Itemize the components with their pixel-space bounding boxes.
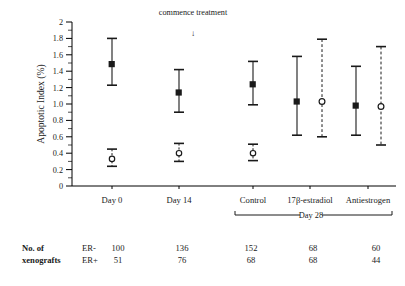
table-group-label-er-pos: ER+	[82, 255, 98, 265]
table-cell: 152	[245, 243, 258, 253]
down-arrow-icon: ↓	[191, 29, 195, 38]
marker-open-circle	[378, 104, 384, 110]
marker-filled-square	[353, 103, 359, 109]
y-tick-label: 0.4	[53, 149, 63, 158]
series-er-positive	[107, 39, 386, 166]
x-label-antiestrogen: Antiestrogen	[346, 195, 391, 205]
y-tick-label: 1.4	[53, 67, 63, 76]
series-er-negative	[107, 38, 361, 135]
y-tick-label: 1.0	[53, 100, 63, 109]
table-cell: 136	[176, 243, 190, 253]
xenograft-count-table: No. of xenografts ER- ER+ 100 136 152 68…	[22, 243, 381, 265]
datapoint-er-pos-day0	[107, 149, 117, 166]
day28-bracket: Day 28	[235, 211, 392, 220]
datapoint-er-neg-estradiol	[292, 56, 302, 135]
y-tick-label: 1.2	[53, 84, 63, 93]
y-tick-label: 2	[59, 18, 63, 27]
datapoint-er-neg-control	[248, 61, 258, 104]
y-tick-label: 0.8	[53, 116, 63, 125]
marker-filled-square	[176, 89, 182, 95]
datapoint-er-neg-day0	[107, 38, 117, 85]
y-tick-label: 0.6	[53, 133, 63, 142]
commence-treatment-annotation: commence treatment ↓	[159, 8, 228, 38]
table-group-label-er-neg: ER-	[82, 243, 96, 253]
table-cell: 100	[112, 243, 125, 253]
marker-open-circle	[319, 99, 325, 105]
y-axis-tick-labels: 2 1.8 1.6 1.4 1.2 1.0 0.8 0.6 0.4 0.2 0	[53, 18, 63, 191]
datapoint-er-pos-day14	[174, 143, 184, 161]
table-row: 100 136 152 68 60	[112, 243, 381, 253]
y-axis-ticks	[66, 22, 72, 186]
x-label-estradiol: 17β-estradiol	[287, 195, 333, 205]
datapoint-er-pos-estradiol	[317, 39, 327, 137]
table-cell: 68	[247, 255, 256, 265]
apoptotic-index-figure: Apoptotic Index (%) 2 1.8 1.6 1.4 1.2	[0, 0, 405, 286]
table-cell: 44	[372, 255, 381, 265]
marker-open-circle	[250, 151, 255, 156]
marker-filled-square	[109, 61, 115, 67]
y-axis-title: Apoptotic Index (%)	[35, 64, 47, 143]
x-axis-category-labels: Day 0 Day 14 Control 17β-estradiol Antie…	[102, 195, 391, 205]
table-row-header-line2: xenografts	[22, 255, 61, 265]
x-label-control: Control	[240, 195, 267, 205]
marker-open-circle	[109, 156, 114, 161]
datapoint-er-neg-day14	[174, 70, 184, 113]
y-tick-label: 1.8	[53, 34, 63, 43]
table-cell: 68	[309, 255, 318, 265]
table-cell: 60	[372, 243, 381, 253]
table-cell: 51	[114, 255, 123, 265]
y-tick-label: 0	[59, 182, 63, 191]
x-label-day0: Day 0	[102, 195, 123, 205]
table-cell: 76	[178, 255, 187, 265]
datapoint-er-neg-antiestrogen	[351, 66, 361, 135]
datapoint-er-pos-antiestrogen	[376, 47, 386, 145]
y-tick-label: 0.2	[53, 166, 63, 175]
marker-filled-square	[250, 81, 256, 87]
datapoint-er-pos-control	[248, 144, 258, 160]
table-row-header-line1: No. of	[22, 243, 44, 253]
commence-treatment-label: commence treatment	[159, 8, 228, 17]
table-row: 51 76 68 68 44	[114, 255, 381, 265]
x-label-day14: Day 14	[166, 195, 192, 205]
marker-filled-square	[294, 98, 300, 104]
axis-lines	[72, 22, 396, 186]
y-tick-label: 1.6	[53, 51, 63, 60]
marker-open-circle	[176, 151, 181, 156]
table-cell: 68	[309, 243, 318, 253]
day28-label: Day 28	[299, 211, 323, 220]
